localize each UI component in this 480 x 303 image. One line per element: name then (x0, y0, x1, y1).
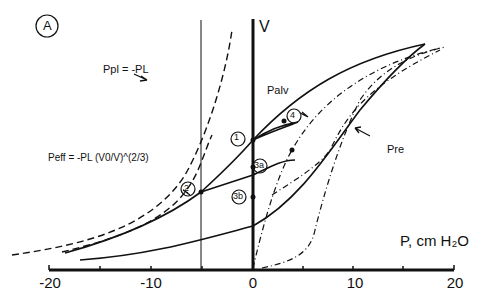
point-2: 2 (184, 183, 189, 193)
x-tick: 0 (249, 274, 257, 291)
x-tick: 10 (347, 274, 364, 291)
peff-label: Peff = -PL (V0/V)^(2/3) (48, 152, 149, 163)
point-4: 4 (290, 110, 295, 120)
point-3b: 3b (233, 191, 243, 201)
x-axis-label: P, cm H₂O (400, 232, 469, 249)
x-tick: 20 (447, 274, 464, 291)
x-tick: -20 (39, 274, 61, 291)
x-tick: -10 (140, 274, 162, 291)
y-axis-label: V (259, 18, 270, 36)
panel-label: A (43, 18, 52, 33)
ppl-label: Ppl = -PL (103, 63, 149, 75)
point-3a: 3a (254, 160, 264, 170)
palv-inner (201, 122, 298, 192)
palv-label: Palv (267, 84, 288, 96)
pre-label: Pre (387, 143, 404, 155)
point-1: 1 (234, 132, 239, 142)
palv-upper (65, 44, 425, 253)
